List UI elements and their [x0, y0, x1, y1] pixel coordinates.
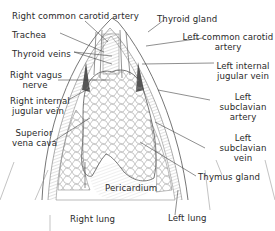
label-line: artery — [180, 42, 275, 52]
label-thyroid-gland: Thyroid gland — [157, 14, 217, 24]
label-line: Right internal — [10, 96, 66, 106]
label-left-subclavian-artery: Left subclavian artery — [218, 92, 268, 122]
label-right-common-carotid-artery: Right common carotid artery — [12, 11, 139, 21]
label-line: jugular vein — [10, 106, 66, 116]
label-superior-vena-cava: Superior vena cava — [12, 128, 56, 148]
label-left-common-carotid-artery: Left common carotid artery — [180, 32, 275, 52]
label-line: jugular vein — [213, 71, 273, 81]
label-line: nerve — [10, 80, 60, 90]
label-line: artery — [218, 112, 268, 122]
label-line: Left — [218, 92, 268, 102]
label-right-lung: Right lung — [70, 214, 115, 224]
thymus-anatomy-diagram: Right common carotid artery Trachea Thyr… — [0, 0, 275, 231]
label-left-internal-jugular-vein: Left internal jugular vein — [213, 61, 273, 81]
label-line: subclavian — [218, 102, 268, 112]
label-line: vena cava — [12, 138, 56, 148]
label-line: Left internal — [213, 61, 273, 71]
label-pericardium: Pericardium — [105, 183, 157, 193]
label-trachea: Trachea — [12, 30, 46, 40]
label-left-lung: Left lung — [168, 213, 207, 223]
label-right-vagus-nerve: Right vagus nerve — [10, 70, 60, 90]
label-line: Left common carotid — [180, 32, 275, 42]
label-left-subclavian-vein: Left subclavian vein — [218, 133, 268, 163]
label-line: Right vagus — [10, 70, 60, 80]
label-right-internal-jugular-vein: Right internal jugular vein — [10, 96, 66, 116]
label-line: Left — [218, 133, 268, 143]
label-line: subclavian — [218, 143, 268, 153]
label-line: Superior — [12, 128, 56, 138]
label-line: vein — [218, 153, 268, 163]
label-thyroid-veins: Thyroid veins — [12, 49, 71, 59]
label-thymus-gland: Thymus gland — [198, 172, 260, 182]
